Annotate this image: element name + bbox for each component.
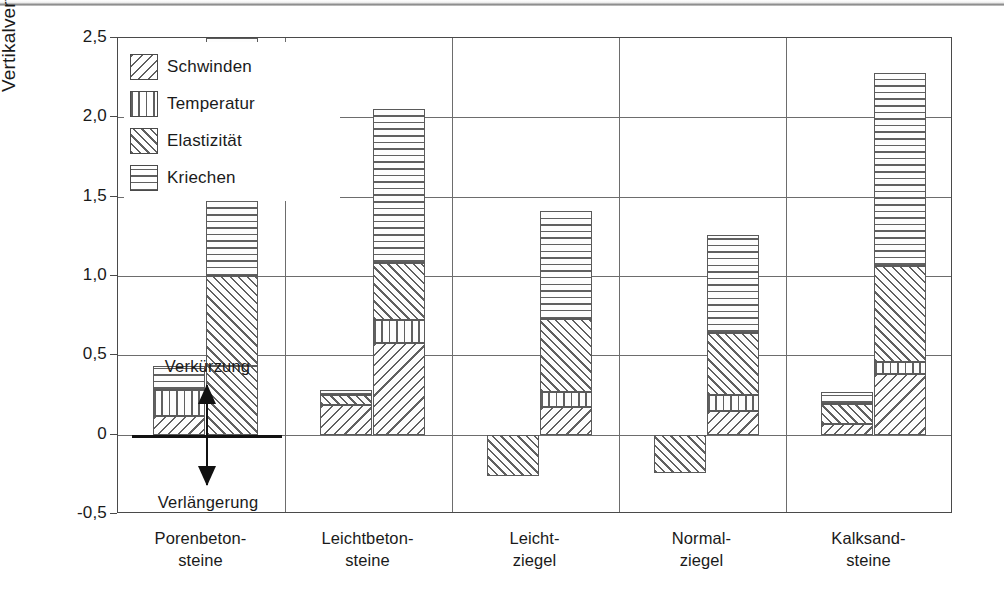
legend-item-schwinden: Schwinden [130,48,340,85]
x-category-label-line1: Leicht- [451,527,618,549]
x-category-label: Leicht-ziegel [451,527,618,571]
annotation-verkuerzung: Verkürzung [130,357,285,376]
bar-segment-elastizitaet [206,276,258,366]
x-category-label-line2: steine [284,549,451,571]
legend-swatch-elastizitaet-icon [130,128,158,154]
y-tick-mark [110,196,117,197]
bar-segment-elastizitaet [707,333,759,395]
y-tick-mark [110,434,117,435]
x-category-label-line1: Normal- [618,527,785,549]
legend-label: Schwinden [167,57,252,77]
y-tick-mark [110,275,117,276]
x-category-label-line2: ziegel [618,549,785,571]
bar-segment-elastizitaet [821,404,873,424]
bar-segment-kriechen [707,235,759,333]
bar-segment-schwinden [373,343,425,435]
bar-segment-schwinden [874,374,926,434]
bar-segment-schwinden [707,411,759,435]
y-tick-label: -0,5 [59,504,107,521]
bar-segment-elastizitaet [373,263,425,320]
y-tick-label: 1,0 [59,266,107,283]
x-category-label-line1: Porenbeton- [117,527,284,549]
plot-area: Verkürzung Verlängerung SchwindenTempera… [117,37,952,513]
bar-segment-elastizitaet [874,266,926,361]
bar-segment-temperatur [874,362,926,375]
arrow-head-down-icon [198,466,216,486]
bar-segment-schwinden [540,407,592,435]
category-separator-line [619,38,620,512]
vertical-deformation-bar-chart: Vertikalverformung Δℓ [mm/m] 2,52,01,51,… [0,0,1004,605]
y-tick-label: 0 [59,425,107,442]
arrow-head-up-icon [198,384,216,404]
legend-label: Temperatur [167,94,255,114]
y-tick-mark [110,116,117,117]
x-category-label-line1: Leichtbeton- [284,527,451,549]
legend-item-elastizitaet: Elastizität [130,122,340,159]
y-tick-mark [110,354,117,355]
bar-segment-temperatur [540,392,592,407]
bar-segment-kriechen [540,211,592,319]
y-tick-mark [110,513,117,514]
bar-segment-kriechen [874,73,926,267]
y-axis-title: Vertikalverformung Δℓ [mm/m] [0,0,20,92]
bar-segment-temperatur [373,320,425,342]
category-separator-line [786,38,787,512]
category-separator-line [452,38,453,512]
x-category-label: Porenbeton-steine [117,527,284,571]
legend-swatch-schwinden-icon [130,54,158,80]
x-category-label-line2: steine [785,549,952,571]
y-tick-label: 0,5 [59,345,107,362]
x-category-label: Leichtbeton-steine [284,527,451,571]
x-category-label-line2: ziegel [451,549,618,571]
bar-segment-elastizitaet [487,435,539,476]
legend-label: Kriechen [167,168,236,188]
bar-segment-elastizitaet [320,395,372,405]
bar-segment-kriechen [821,392,873,404]
bar-segment-schwinden [320,405,372,435]
bar-segment-elastizitaet [540,319,592,392]
legend-item-temperatur: Temperatur [130,85,340,122]
bar-segment-schwinden [821,424,873,435]
bar-segment-temperatur [707,395,759,411]
bar-segment-kriechen [320,390,372,395]
deformation-direction-arrow-icon [192,385,222,485]
legend-label: Elastizität [167,131,242,151]
bar-segment-kriechen [373,109,425,263]
legend: SchwindenTemperaturElastizitätKriechen [124,42,340,201]
y-axis-title-prefix: Vertikalverformung [0,0,19,92]
bar-segment-elastizitaet [654,435,706,473]
legend-item-kriechen: Kriechen [130,159,340,196]
x-category-label: Normal-ziegel [618,527,785,571]
x-category-label-line2: steine [117,549,284,571]
annotation-verlaengerung: Verlängerung [124,493,292,512]
y-tick-mark [110,37,117,38]
legend-swatch-temperatur-icon [130,91,158,117]
legend-swatch-kriechen-icon [130,165,158,191]
x-category-label-line1: Kalksand- [785,527,952,549]
y-tick-label: 2,5 [59,28,107,45]
x-category-label: Kalksand-steine [785,527,952,571]
y-tick-label: 2,0 [59,107,107,124]
y-tick-label: 1,5 [59,187,107,204]
